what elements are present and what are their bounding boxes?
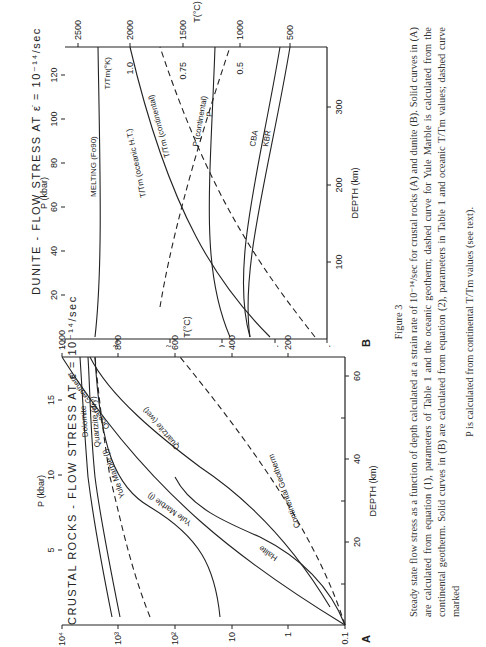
svg-text:T/Tm(°K): T/Tm(°K) [103,57,112,90]
svg-text:200: 200 [334,177,344,192]
curve-ttm-continental [160,47,315,337]
svg-text:100: 100 [334,254,344,269]
svg-text:Quartzite (wet): Quartzite (wet) [141,405,182,451]
svg-text:DEPTH (km): DEPTH (km) [350,168,360,219]
svg-text:10: 10 [227,632,237,642]
svg-text:60: 60 [352,371,362,381]
curve-continental-geotherm [180,357,345,625]
panel-a-chart: 10⁴ 10³ 10² 10 1 0.1 20 40 60 5 10 15 10… [0,317,390,647]
svg-text:MELTING (Fo90): MELTING (Fo90) [89,136,98,197]
curve-ttm-oceanic [130,47,270,337]
svg-text:P (kbar): P (kbar) [36,475,46,507]
svg-text:1: 1 [283,632,293,637]
svg-text:10³: 10³ [113,632,123,645]
svg-text:10: 10 [217,345,227,347]
svg-text:10⁴: 10⁴ [60,345,70,347]
svg-text:0.5: 0.5 [235,62,245,75]
svg-text:P: P [205,111,214,117]
svg-text:1.0: 1.0 [125,62,135,75]
svg-text:0.75: 0.75 [178,62,188,80]
caption-line-5: P is calculated from continental T/Tm va… [463,27,477,617]
svg-text:10⁴: 10⁴ [57,632,67,646]
svg-text:100: 100 [49,111,59,126]
svg-text:1000: 1000 [235,20,245,40]
panel-b-chart: 10⁴ 10³ 10² 10 1 0.1 100 200 300 20 40 6… [0,0,390,347]
svg-text:10²: 10² [165,345,175,347]
curve-kbr [248,47,290,337]
svg-text:120: 120 [49,67,59,82]
figure-caption: Figure 3 Steady state flow stress as a f… [392,27,477,617]
svg-text:P (kbar): P (kbar) [39,177,49,209]
curve-p-continental [160,47,230,307]
panel-a-letter: A [360,635,372,643]
svg-text:2000: 2000 [125,20,135,40]
svg-text:2500: 2500 [73,20,83,40]
svg-text:5: 5 [46,547,56,552]
svg-text:300: 300 [334,99,344,114]
curve-oceanic-geotherm [62,357,345,625]
svg-text:1: 1 [270,345,280,347]
svg-text:CBA: CBA [248,129,260,147]
svg-text:500: 500 [285,25,295,40]
svg-text:0.1: 0.1 [322,345,332,347]
panel-b-axes [61,43,331,343]
svg-text:10²: 10² [170,632,180,645]
svg-text:T/Tm (oceanic H.T.): T/Tm (oceanic H.T.) [124,128,147,199]
svg-text:20: 20 [49,290,59,300]
rotated-page: CRUSTAL ROCKS - FLOW STRESS AT ε̇ = 10⁻¹… [0,0,486,647]
svg-text:10³: 10³ [112,345,122,347]
svg-text:DEPTH (km): DEPTH (km) [368,466,378,517]
svg-text:15: 15 [46,395,56,405]
curve-quartzite-wet [90,357,330,607]
svg-text:40: 40 [352,454,362,464]
panel-b-letter: B [360,339,372,347]
panel-a-axes [58,353,349,629]
svg-text:1500: 1500 [178,20,188,40]
svg-text:60: 60 [49,202,59,212]
svg-text:T(°C): T(°C) [192,1,202,23]
figure-label: Figure 3 [392,27,406,617]
svg-text:80: 80 [49,158,59,168]
svg-text:Continental Geotherm: Continental Geotherm [267,452,302,529]
svg-text:40: 40 [49,246,59,256]
svg-text:20: 20 [352,537,362,547]
svg-text:0.1: 0.1 [340,632,350,645]
caption-line-1: Steady state flow stress as a function o… [408,176,419,617]
svg-text:10: 10 [46,470,56,480]
